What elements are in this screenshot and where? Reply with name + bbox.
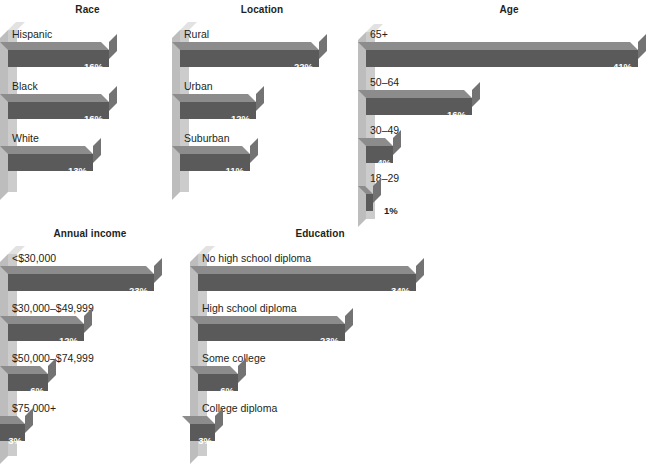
bar-value-label: 12%	[59, 332, 78, 349]
bar-category-label: Some college	[202, 352, 266, 364]
axis-wall-left-face	[0, 30, 8, 200]
bar-value-label: 41%	[613, 58, 632, 75]
bar-top-face	[0, 94, 109, 102]
bar-front-face: 1%	[366, 194, 373, 211]
bar-top-face	[0, 266, 154, 274]
bar-front-face: 23%	[8, 274, 154, 291]
bar-value-label: 23%	[129, 282, 148, 299]
bar-front-face: 16%	[8, 50, 109, 67]
bar-end-cap	[472, 82, 480, 107]
bar-category-label: $75,000+	[12, 402, 56, 414]
bar-top-face	[172, 42, 319, 50]
bar-top-face	[358, 90, 472, 98]
bar-category-label: 18–29	[370, 172, 399, 184]
bar-category-label: No high school diploma	[202, 252, 311, 264]
bar-end-cap	[154, 258, 162, 283]
bar-top-face	[358, 42, 638, 50]
bar-end-cap	[250, 138, 258, 163]
panel-title-education: Education	[190, 228, 450, 239]
bar-value-label: 16%	[84, 58, 103, 75]
bar-end-cap	[256, 86, 264, 111]
axis-wall-left-face	[172, 30, 180, 200]
bar-top-face	[0, 316, 84, 324]
bar-front-face: 16%	[366, 98, 472, 115]
bar-front-face: 16%	[8, 102, 109, 119]
bar-category-label: Hispanic	[12, 28, 52, 40]
bar-category-label: 50–64	[370, 76, 399, 88]
bar-value-label: 4%	[377, 154, 391, 171]
bar-value-label: 3%	[198, 432, 212, 449]
bar-front-face: 34%	[198, 274, 416, 291]
bar-end-cap	[345, 308, 353, 333]
bar-category-label: Urban	[184, 80, 213, 92]
bar-category-label: Black	[12, 80, 38, 92]
bar-end-cap	[638, 34, 646, 59]
bar-end-cap	[109, 34, 117, 59]
bar-value-label: 1%	[384, 202, 398, 219]
bar-top-face	[190, 366, 238, 374]
bar-front-face: 12%	[8, 324, 84, 341]
bar-front-face: 13%	[8, 154, 93, 171]
panel-title-annual-income: Annual income	[0, 228, 180, 239]
bar-end-cap	[416, 258, 424, 283]
panel-title-location: Location	[172, 4, 352, 15]
bar-top-face	[182, 416, 215, 424]
bar-end-cap	[93, 138, 101, 163]
panel-title-age: Age	[358, 4, 660, 15]
panel-education: Education No high school diploma 34% Hig…	[190, 228, 450, 463]
bar-value-label: 11%	[226, 162, 245, 179]
bar-value-label: 16%	[447, 106, 466, 123]
bar-top-face	[190, 266, 416, 274]
bar-category-label: Rural	[184, 28, 209, 40]
bar-front-face: 41%	[366, 50, 638, 67]
panel-age: Age 65+ 41% 50–64	[358, 4, 660, 219]
bar-category-label: <$30,000	[12, 252, 56, 264]
bar-top-face	[172, 94, 256, 102]
bar-category-label: College diploma	[202, 402, 277, 414]
bar-front-face: 12%	[180, 102, 256, 119]
panel-race: Race Hispanic 16% Black	[0, 4, 175, 204]
bar-front-face: 3%	[190, 424, 215, 441]
panel-annual-income: Annual income <$30,000 23% $30,000–$49,9…	[0, 228, 180, 463]
bar-value-label: 6%	[220, 382, 234, 399]
bar-category-label: $30,000–$49,999	[12, 302, 94, 314]
bar-front-face: 22%	[180, 50, 319, 67]
panel-location: Location Rural 22% Urban	[172, 4, 352, 204]
bar-value-label: 6%	[30, 382, 44, 399]
bar-front-face: 6%	[198, 374, 238, 391]
bar-front-face: 11%	[180, 154, 250, 171]
bar-end-cap	[319, 34, 327, 59]
bar-front-face: 6%	[8, 374, 48, 391]
bar-category-label: 65+	[370, 28, 388, 40]
bar-front-face: 3%	[0, 424, 25, 441]
bar-top-face	[0, 146, 93, 154]
bar-top-face	[0, 416, 25, 424]
bar-value-label: 34%	[391, 282, 410, 299]
bar-value-label: 23%	[320, 332, 339, 349]
panel-title-race: Race	[0, 4, 175, 15]
bar-category-label: White	[12, 132, 39, 144]
bar-category-label: 30–49	[370, 124, 399, 136]
bar-top-face	[0, 366, 48, 374]
bar-top-face	[172, 146, 250, 154]
bar-top-face	[190, 316, 345, 324]
bar-category-label: Suburban	[184, 132, 230, 144]
bar-value-label: 12%	[231, 110, 250, 127]
bar-category-label: High school diploma	[202, 302, 297, 314]
axis-wall-left-face	[358, 32, 366, 227]
bar-top-face	[0, 42, 109, 50]
bar-value-label: 16%	[84, 110, 103, 127]
bar-front-face: 4%	[366, 146, 393, 163]
bar-end-cap	[109, 86, 117, 111]
bar-value-label: 22%	[294, 58, 313, 75]
bar-front-face: 23%	[198, 324, 345, 341]
bar-value-label: 3%	[8, 432, 22, 449]
bar-value-label: 13%	[68, 162, 87, 179]
